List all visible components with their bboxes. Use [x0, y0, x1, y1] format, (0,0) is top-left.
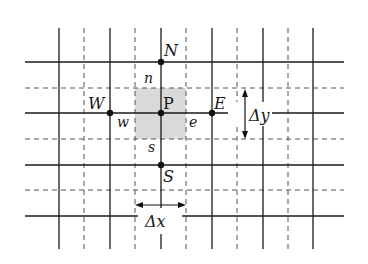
label-east: E	[213, 94, 226, 113]
label-south: S	[163, 167, 174, 186]
label-face-w: w	[117, 114, 129, 130]
label-face-e: e	[189, 114, 197, 130]
diagram-canvas: N n P W w e E s S Δy Δx	[0, 0, 368, 264]
label-face-n: n	[144, 70, 153, 86]
grid-diagram: N n P W w e E s S Δy Δx	[0, 0, 368, 264]
label-dx: Δx	[144, 212, 166, 231]
label-dy: Δy	[248, 106, 271, 125]
label-north: N	[163, 41, 179, 60]
label-west: W	[88, 94, 106, 113]
node-west-dot	[107, 110, 113, 116]
label-face-s: s	[148, 139, 155, 155]
label-center-p: P	[163, 94, 174, 113]
